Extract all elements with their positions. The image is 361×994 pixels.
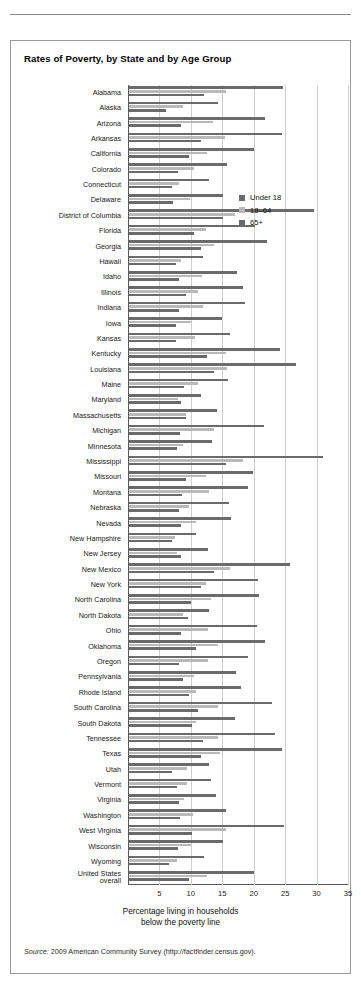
category-label: New Hampshire <box>70 535 121 543</box>
category-label: Georgia <box>95 243 121 251</box>
bar-under-18 <box>129 179 209 182</box>
bar-18-64 <box>129 782 187 785</box>
bar-under-18 <box>129 686 241 689</box>
bar-group <box>129 470 349 485</box>
bar-under-18 <box>129 363 296 366</box>
category-label: North Dakota <box>79 612 121 620</box>
bar-18-64 <box>129 721 196 724</box>
bar-under-18 <box>129 763 209 766</box>
bar-group <box>129 270 349 285</box>
chart-legend: Under 18 18–64 65+ <box>239 193 281 231</box>
category-label: Montana <box>93 489 121 497</box>
bar-under-18 <box>129 86 283 89</box>
bar-group <box>129 254 349 269</box>
bar-18-64 <box>129 813 193 816</box>
bar-18-64 <box>129 582 206 585</box>
bar-group <box>129 377 349 392</box>
bar-65-plus <box>129 878 189 881</box>
bar-65-plus <box>129 863 169 866</box>
bar-18-64 <box>129 659 208 662</box>
bar-under-18 <box>129 409 217 412</box>
bar-group <box>129 300 349 315</box>
bar-under-18 <box>129 240 267 243</box>
bar-group <box>129 439 349 454</box>
category-label: Maine <box>101 381 121 389</box>
bar-65-plus <box>129 155 189 158</box>
figure-page: Rates of Poverty, by State and by Age Gr… <box>0 0 361 994</box>
category-label: Tennessee <box>86 735 121 743</box>
x-tick-25: 25 <box>281 889 289 898</box>
x-tick-35: 35 <box>344 889 352 898</box>
bar-65-plus <box>129 294 186 297</box>
bar-under-18 <box>129 302 245 305</box>
category-axis-labels: AlabamaAlaskaArizonaArkansasCaliforniaCo… <box>11 85 125 885</box>
bar-under-18 <box>129 517 231 520</box>
bar-under-18 <box>129 794 216 797</box>
bar-65-plus <box>129 586 201 589</box>
bar-65-plus <box>129 340 176 343</box>
bar-18-64 <box>129 198 190 201</box>
bar-group <box>129 654 349 669</box>
bar-65-plus <box>129 355 207 358</box>
bar-under-18 <box>129 856 204 859</box>
bar-under-18 <box>129 609 209 612</box>
bar-18-64 <box>129 459 243 462</box>
bar-65-plus <box>129 94 204 97</box>
legend-item-18-64: 18–64 <box>239 206 281 215</box>
bar-group <box>129 670 349 685</box>
category-label: Oklahoma <box>88 643 121 651</box>
bar-under-18 <box>129 579 258 582</box>
bar-group <box>129 147 349 162</box>
legend-item-under-18: Under 18 <box>239 193 281 202</box>
bar-18-64 <box>129 136 225 139</box>
category-label: Florida <box>99 227 121 235</box>
category-label: West Virginia <box>79 827 121 835</box>
category-label: Virginia <box>97 796 121 804</box>
source-label: Source: <box>24 947 49 956</box>
bar-group <box>129 500 349 515</box>
x-axis-title-line1: Percentage living in households <box>123 907 239 916</box>
bar-18-64 <box>129 228 206 231</box>
bar-65-plus <box>129 832 192 835</box>
bar-under-18 <box>129 486 248 489</box>
bar-under-18 <box>129 209 314 212</box>
bar-65-plus <box>129 601 191 604</box>
category-label: Minnesota <box>88 443 121 451</box>
bar-18-64 <box>129 444 183 447</box>
bar-under-18 <box>129 548 208 551</box>
bar-18-64 <box>129 182 179 185</box>
bar-under-18 <box>129 163 227 166</box>
bar-group <box>129 839 349 854</box>
category-label: Maryland <box>91 396 121 404</box>
bar-group <box>129 547 349 562</box>
bar-18-64 <box>129 321 191 324</box>
bar-65-plus <box>129 478 186 481</box>
bar-18-64 <box>129 875 207 878</box>
bar-65-plus <box>129 463 226 466</box>
bar-18-64 <box>129 475 206 478</box>
bar-18-64 <box>129 367 227 370</box>
legend-label-65-plus: 65+ <box>250 218 263 227</box>
bar-18-64 <box>129 428 214 431</box>
bar-under-18 <box>129 379 228 382</box>
category-label: New Jersey <box>83 550 121 558</box>
category-label: Missouri <box>94 473 121 481</box>
category-label: California <box>91 150 121 158</box>
bar-group <box>129 408 349 423</box>
bar-group <box>129 454 349 469</box>
bar-under-18 <box>129 840 223 843</box>
bar-under-18 <box>129 440 212 443</box>
bar-18-64 <box>129 798 184 801</box>
category-label: Illinois <box>101 289 121 297</box>
bar-65-plus <box>129 201 173 204</box>
bar-group <box>129 870 349 885</box>
bar-65-plus <box>129 386 184 389</box>
bar-under-18 <box>129 625 257 628</box>
bar-65-plus <box>129 401 181 404</box>
x-tick-15: 15 <box>218 889 226 898</box>
bar-group <box>129 593 349 608</box>
bar-65-plus <box>129 309 179 312</box>
category-label: Nevada <box>96 520 121 528</box>
bar-18-64 <box>129 567 230 570</box>
legend-item-65-plus: 65+ <box>239 218 281 227</box>
